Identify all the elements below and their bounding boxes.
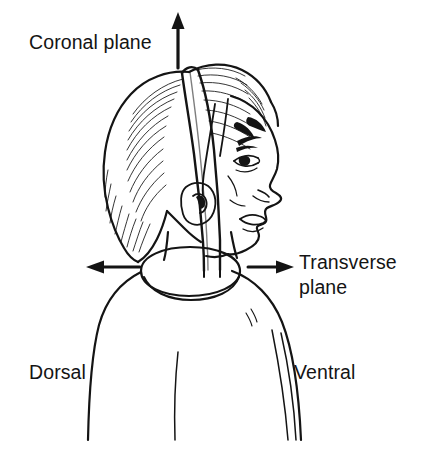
eyebrow bbox=[236, 136, 262, 152]
coronal-plane-arrow bbox=[172, 12, 185, 68]
transverse-plane-arrow-left bbox=[86, 261, 140, 274]
anatomical-plane-diagram: Coronal plane Transverseplane Dorsal Ven… bbox=[0, 0, 430, 451]
transverse-plane-label-line2: plane bbox=[299, 276, 347, 298]
jawline bbox=[206, 254, 228, 257]
transverse-plane-label-line1: Transverse bbox=[299, 251, 397, 273]
hair-shading-back bbox=[105, 79, 183, 252]
coronal-band-neck-junction bbox=[204, 270, 220, 277]
transverse-plane-arrow-right bbox=[248, 261, 294, 274]
eye-lower-lid bbox=[236, 168, 257, 172]
ventral-label: Ventral bbox=[294, 360, 355, 385]
lips bbox=[240, 215, 266, 232]
eye-pupil bbox=[239, 156, 250, 166]
hair-shadow-temple bbox=[234, 117, 266, 139]
cheek-lines bbox=[228, 176, 245, 206]
coronal-plane-label: Coronal plane bbox=[29, 30, 152, 55]
torso-fold-lines bbox=[175, 309, 296, 440]
dorsal-label: Dorsal bbox=[29, 360, 86, 385]
nose bbox=[253, 190, 269, 202]
transverse-plane-label: Transverseplane bbox=[299, 250, 397, 300]
